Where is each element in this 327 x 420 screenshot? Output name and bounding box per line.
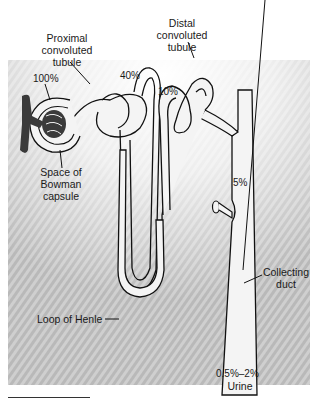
label-collecting-line1: Collecting bbox=[256, 266, 316, 278]
label-proximal-line2: convoluted bbox=[32, 44, 102, 56]
label-distal-line3: tubule bbox=[152, 41, 212, 53]
pct-5: 5% bbox=[233, 177, 247, 188]
label-bowman-line1: Space of bbox=[30, 166, 92, 178]
label-bowman-line2: Bowman bbox=[30, 178, 92, 190]
divider-line bbox=[8, 397, 90, 398]
label-proximal-line3: tubule bbox=[32, 56, 102, 68]
label-urine: Urine bbox=[226, 380, 254, 392]
label-bowman-line3: capsule bbox=[30, 190, 92, 202]
pct-10: 10% bbox=[158, 86, 178, 97]
label-collecting-line2: duct bbox=[256, 278, 316, 290]
pct-40: 40% bbox=[120, 70, 140, 81]
label-distal-line2: convoluted bbox=[152, 29, 212, 41]
pct-100: 100% bbox=[33, 73, 59, 84]
label-loop-of-henle: Loop of Henle bbox=[37, 313, 102, 325]
label-proximal-line1: Proximal bbox=[32, 32, 102, 44]
pct-urine: 0.5%–2% bbox=[216, 368, 259, 379]
label-distal-line1: Distal bbox=[152, 17, 212, 29]
